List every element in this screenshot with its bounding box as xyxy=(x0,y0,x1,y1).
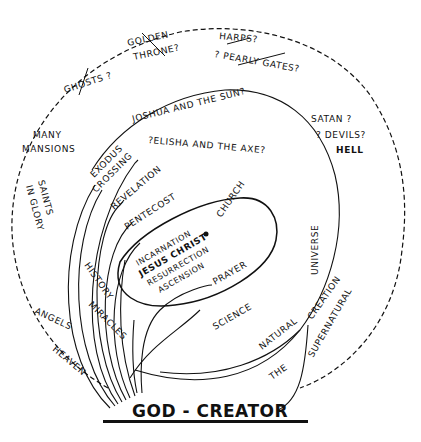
label-universe: UNIVERSE xyxy=(310,225,320,275)
label-harps: HARPS? xyxy=(219,31,258,44)
label-many: MANY xyxy=(33,130,62,140)
label-joshua: JOSHUA AND THE SUN? xyxy=(130,86,246,124)
label-satan: SATAN ? xyxy=(311,114,352,124)
label-the: THE xyxy=(267,362,290,382)
label-devils: ? DEVILS? xyxy=(316,130,366,140)
jesus-christ-dot xyxy=(204,232,209,237)
label-hell: HELL xyxy=(336,145,364,155)
label-church: CHURCH xyxy=(214,179,246,219)
label-pearly-gates: ? PEARLY GATES? xyxy=(214,49,301,74)
label-angels: ANGELS xyxy=(33,306,73,332)
title-underline xyxy=(103,420,308,423)
label-ghosts: GHOSTS ? xyxy=(63,70,114,95)
label-natural: NATURAL xyxy=(257,316,299,352)
label-elisha: ?ELISHA AND THE AXE? xyxy=(148,135,266,155)
label-heaven: HEAVEN xyxy=(51,344,88,378)
title-god-creator: GOD - CREATOR xyxy=(132,401,288,421)
label-science: SCIENCE xyxy=(211,301,253,331)
label-mansions: MANSIONS xyxy=(22,144,75,154)
god-creator-diagram: GOD - CREATOR GOLDEN THRONE? HARPS? ? PE… xyxy=(0,0,421,442)
label-prayer: PRAYER xyxy=(211,259,249,287)
